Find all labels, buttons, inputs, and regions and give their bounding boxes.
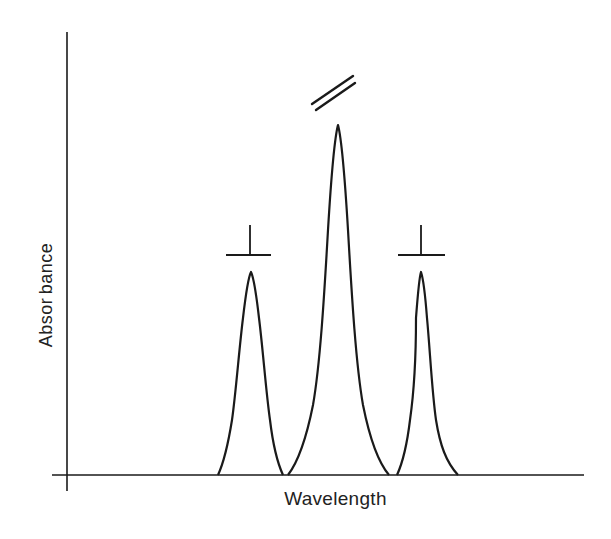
parallel-icon <box>312 76 355 110</box>
peak-right <box>397 272 458 475</box>
y-axis-label: Absor bance <box>36 243 57 348</box>
peak-center <box>288 125 389 475</box>
perpendicular-icon-right <box>398 225 445 255</box>
x-axis-label: Wavelength <box>0 488 611 510</box>
spectrum-diagram <box>0 0 611 539</box>
perpendicular-icon-left <box>226 225 271 255</box>
peak-left <box>218 272 283 475</box>
